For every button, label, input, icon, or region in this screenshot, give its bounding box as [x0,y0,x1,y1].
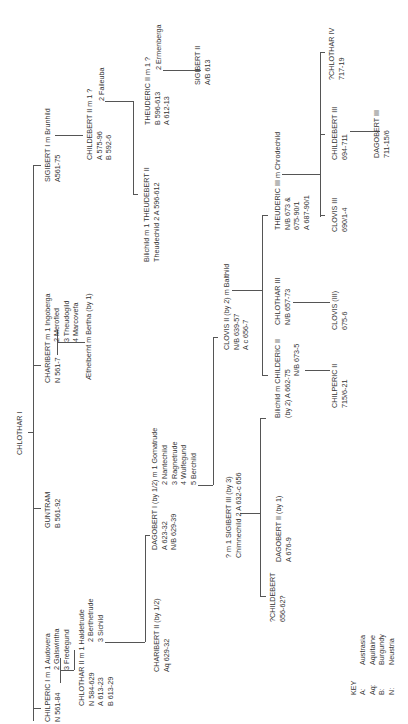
key-abbrs: A: Aq: B: N: [358,684,396,695]
tick-theudebert [133,194,138,195]
line-clovis-ii-sons-v [262,215,263,375]
reign-childeric-ii-2: N/B 673-5 [292,339,302,418]
tick-childebert-iii [320,134,325,135]
name-guntram: GUNTRAM [43,492,53,528]
name-sigibert-ii: SIGIBERT II [193,46,203,85]
line-sigibert-iii-children-v [260,418,261,596]
wife: 3 Theudogild [62,301,72,342]
theuderic-ii-wives: 2 Ermenberga [154,24,164,70]
line-childebert-sons-v [133,101,134,195]
reign: A c 656-7 [241,264,251,350]
tick-charibert [33,365,41,366]
wife: 2 Merofled [52,301,62,342]
tick-childebert-q [260,596,266,597]
node-guntram: GUNTRAM B 561-92 [43,492,62,528]
wife: 2 Faileuba [97,67,107,101]
key-abbr: B: [377,684,387,695]
reign-clovis-iii-paren: 675-6 [340,291,350,330]
wife: 4 Wulfegund [179,441,189,485]
trunk-line [33,165,34,721]
tick-clovis-ii [213,337,218,338]
name-childeric-ii: Bilichild m CHILDERIC II [273,339,283,418]
reign: 675-90/1 [292,132,302,230]
line-chlothar-sons-v [145,535,146,642]
charibert-wives: 2 Merofled 3 Theudogild 4 Marcovefa [52,301,81,342]
reign-chlothar-iii: N/B 657-73 [283,277,293,325]
tick-chlothar-iv [320,52,325,53]
tick-guntram [33,508,41,509]
key-abbr: Aq: [368,684,378,695]
name-theuderic-iii: THEUDERIC III m Chrodechild [273,132,283,230]
node-sigibert-iii: ? m 1 SIGIBERT III (by 3) Chimnechild 2 … [224,472,243,558]
node-dagobert-ii: DAGOBERT II (by 1) A 676-9 [274,496,293,562]
wife: 5 Berchild [189,441,199,485]
line-dagobert-sons [198,485,213,486]
node-clovis-iii-paren: CLOVIS (III) 675-6 [330,291,349,330]
reign-clovis-iii: 690/1-4 [340,198,350,232]
name-childebert-ii: CHILDEBERT II m 1 ? [85,89,95,160]
node-sigibert-i: SIGIBERT I m Brunhild A561-75 [43,108,62,182]
key-name: Aquitaine [368,634,378,665]
key-name: Neustria [387,634,397,665]
wife: 2 Berthetrude [86,598,96,642]
name-clovis-iii-paren: CLOVIS (III) [330,291,340,330]
tick-chilperic [33,708,41,709]
name-childebert-iii: CHILDEBERT III [330,107,340,160]
name-childebert-q: ?CHILDEBERT [268,573,278,622]
reign: B 613-29 [106,609,116,706]
chilperic-wives: 2 Galswintha 3 Fredegund [52,628,71,670]
reign-sigibert-ii: A/B 613 [203,46,213,85]
node-sigibert-ii: SIGIBERT II A/B 613 [193,46,212,85]
line-chlothar-clovis [293,302,330,303]
reign: A 687-90/1 [302,132,312,230]
tick-bilichild [260,418,266,419]
key-abbr: A: [358,684,368,695]
reign-theudebert-ii: Theudechild 2 A 596-612 [152,167,162,262]
reign: N/B 639-57 [232,264,242,350]
wife: 4 Marcovefa [71,301,81,342]
node-charibert-ii: CHARIBERT II (by 1/2) Aq 629-32 [152,598,171,672]
name-chlothar-i: CHLOTHAR I [15,411,25,455]
node-theuderic-iii: THEUDERIC III m Chrodechild N/B 673 & 67… [273,132,311,230]
name-dagobert-iii: DAGOBERT III [372,110,382,158]
node-childebert-q: ?CHILDEBERT 656-62? [268,573,287,622]
name-charibert-ii: CHARIBERT II (by 1/2) [152,598,162,672]
wife: 3 Ragnetrude [170,441,180,485]
reign-dagobert-iii: 711-15/6 [382,110,392,158]
name-clovis-iii: CLOVIS III [330,198,340,232]
wife: 3 Fredegund [62,628,72,670]
name-chlothar-iii: CHLOTHAR III [273,277,283,325]
node-childeric-ii: Bilichild m CHILDERIC II (by 2) A 662-75… [273,339,302,418]
dagobert-i-wives: 2 Nantechild 3 Ragnetrude 4 Wulfegund 5 … [160,441,198,485]
node-clovis-ii: CLOVIS II (by 2) m Balthild N/B 639-57 A… [222,264,251,350]
name-clovis-ii: CLOVIS II (by 2) m Balthild [222,264,232,350]
line-dagobert-sons-v [213,337,214,485]
reign: N/B 673 & [283,132,293,230]
reign: A 612-13 [162,57,172,125]
name-aethelberht: Æthelberht m Bertha (by 1) [84,293,94,380]
wife: 2 Galswintha [52,628,62,670]
reign-charibert-ii: Aq 629-32 [162,598,172,672]
name-chilperic-ii: CHILPERIC II [330,364,340,408]
reign-childeric-ii: (by 2) A 662-75 [283,339,293,418]
tick-sigibert [33,165,41,166]
key-name: Burgundy [377,634,387,665]
name-dagobert-ii: DAGOBERT II (by 1) [274,496,284,562]
reign-dagobert-ii: A 676-9 [284,496,294,562]
chlothar-ii-wives: 2 Berthetrude 3 Sichild [86,598,105,642]
wife: 3 Sichild [96,598,106,642]
reign-guntram: B 561-92 [53,492,63,528]
reign-sigibert-i: A561-75 [53,108,63,182]
childebert-ii-wives: 2 Faileuba [97,67,107,101]
line-chilperic-chlothar-v [74,650,75,670]
node-chlothar-i: CHLOTHAR I [15,411,25,455]
reign-chilperic-ii: 715/6-21 [340,364,350,408]
tick-theuderic-iii [262,215,268,216]
root-tick [28,432,33,433]
reign-childebert-iii: 694-711 [340,107,350,160]
wife: 2 Nantechild [160,441,170,485]
name-sigibert-i: SIGIBERT I m Brunhild [43,108,53,182]
key-abbr: N: [387,684,397,695]
node-chlothar-iii: CHLOTHAR III N/B 657-73 [273,277,292,325]
reign-childebert-q: 656-62? [278,573,288,622]
